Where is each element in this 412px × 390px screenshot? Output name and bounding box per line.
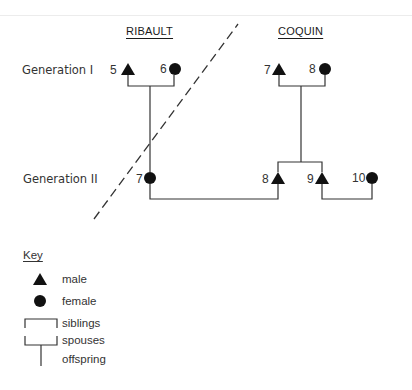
coquin-gen2-8-male-icon [271, 172, 285, 184]
coquin-gen2-8-number: 8 [262, 172, 269, 186]
coquin9-10-spouse-line [322, 184, 372, 199]
key-siblings-bracket-icon [25, 319, 57, 328]
family-name-ribault: RIBAULT [126, 24, 173, 38]
key-male-triangle-icon [33, 273, 47, 285]
coquin-gen2-9-number: 9 [307, 172, 314, 186]
ribault7-coquin8-spouse-line [150, 184, 278, 199]
coquin-7-male-icon [272, 63, 286, 75]
ribault-7-female-icon [144, 172, 156, 184]
pedigree-diagram [0, 0, 412, 390]
ribault-spouse-bracket [128, 75, 174, 86]
key-title: Key [23, 248, 43, 262]
key-label-female: female [62, 294, 97, 308]
ribault-7-number: 7 [136, 172, 143, 186]
generation-1-label: Generation I [22, 63, 93, 77]
key-label-siblings: siblings [62, 316, 100, 330]
ribault-6-female-icon [169, 63, 181, 75]
coquin-sibling-bracket [278, 162, 322, 172]
key-label-offspring: offspring [62, 352, 106, 366]
coquin-7-number: 7 [264, 63, 271, 77]
coquin-gen2-10-number: 10 [352, 171, 365, 185]
key-spouses-bracket-icon [25, 336, 57, 345]
family-separator-dashed-line [94, 24, 238, 219]
key-female-circle-icon [34, 295, 46, 307]
key-label-male: male [62, 272, 87, 286]
generation-2-label: Generation II [23, 172, 98, 186]
ribault-6-number: 6 [160, 62, 167, 76]
coquin-gen2-9-male-icon [315, 172, 329, 184]
coquin-8-female-icon [319, 63, 331, 75]
family-name-coquin: COQUIN [278, 24, 323, 38]
ribault-5-male-icon [121, 63, 135, 75]
coquin-8-number: 8 [309, 62, 316, 76]
coquin-gen2-10-female-icon [366, 172, 378, 184]
ribault-5-number: 5 [110, 63, 117, 77]
key-label-spouses: spouses [62, 333, 105, 347]
coquin-spouse-bracket [279, 75, 325, 86]
